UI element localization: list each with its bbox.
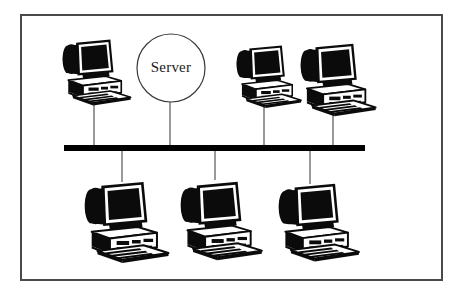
desktop-computer-icon	[85, 182, 169, 263]
server-node[interactable]: Server	[137, 34, 205, 102]
connector-links	[94, 98, 333, 184]
desktop-computer-icon	[181, 182, 262, 260]
workstation-bottom-left[interactable]	[85, 182, 169, 263]
workstation-top-right[interactable]	[301, 44, 376, 117]
desktop-computer-icon	[279, 184, 359, 262]
workstation-bottom-center[interactable]	[181, 182, 262, 260]
desktop-computer-icon	[301, 44, 376, 117]
server-label: Server	[151, 59, 191, 75]
diagram-canvas: Server	[0, 0, 463, 293]
workstation-top-center-right[interactable]	[237, 45, 302, 107]
workstation-nodes	[63, 40, 376, 263]
desktop-computer-icon	[237, 45, 302, 107]
network-topology-diagram: Server	[0, 0, 463, 293]
workstation-bottom-right[interactable]	[279, 184, 359, 262]
desktop-computer-icon	[63, 40, 131, 106]
network-bus-bar	[64, 145, 365, 151]
workstation-top-left[interactable]	[63, 40, 131, 106]
